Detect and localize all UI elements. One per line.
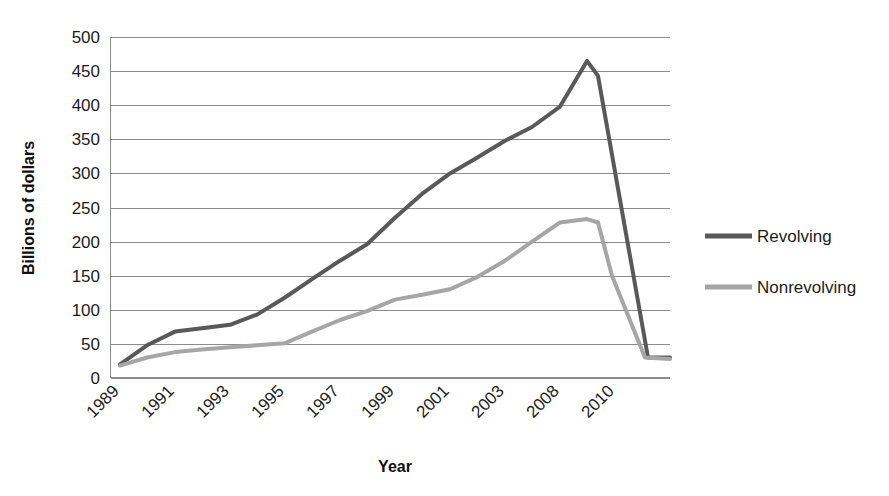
x-axis-title: Year bbox=[378, 458, 412, 475]
y-axis-tick-label: 50 bbox=[81, 335, 100, 354]
y-axis-tick-label: 300 bbox=[72, 164, 100, 183]
y-axis-tick-label: 0 bbox=[91, 369, 100, 388]
y-axis-tick-label: 500 bbox=[72, 28, 100, 47]
legend-label-nonrevolving: Nonrevolving bbox=[757, 278, 856, 297]
y-axis-tick-label: 450 bbox=[72, 62, 100, 81]
y-axis-tick-label: 250 bbox=[72, 199, 100, 218]
chart-background bbox=[0, 0, 889, 496]
chart-canvas: 500450400350300250200150100500 198919911… bbox=[0, 0, 889, 496]
y-axis-tick-label: 350 bbox=[72, 130, 100, 149]
y-axis-tick-label: 200 bbox=[72, 233, 100, 252]
y-axis-tick-label: 150 bbox=[72, 267, 100, 286]
y-axis-tick-label: 400 bbox=[72, 96, 100, 115]
line-chart-figure: 500450400350300250200150100500 198919911… bbox=[0, 0, 889, 496]
legend-label-revolving: Revolving bbox=[757, 227, 832, 246]
y-axis-tick-label: 100 bbox=[72, 301, 100, 320]
y-axis-title: Billions of dollars bbox=[20, 141, 37, 275]
